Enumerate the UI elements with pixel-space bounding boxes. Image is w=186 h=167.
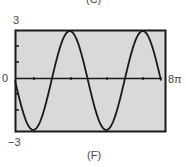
plot-background xyxy=(16,31,166,132)
plot-area xyxy=(0,0,186,167)
